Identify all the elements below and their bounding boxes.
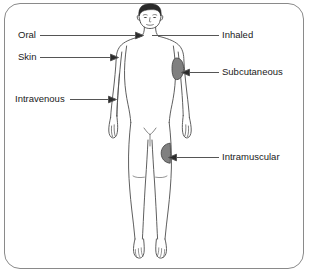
left-foot-toes: [135, 248, 142, 258]
label-subcutaneous: Subcutaneous: [222, 67, 283, 77]
right-hand: [182, 116, 191, 138]
subcutaneous-patch-icon: [172, 58, 184, 80]
face-features-group: [143, 14, 157, 25]
left-knee: [133, 176, 144, 178]
right-leg-outer: [165, 123, 171, 240]
left-leg-outer: [129, 123, 135, 240]
human-body-figure: [0, 0, 310, 275]
diagram-root: Oral Skin Intravenous Inhaled Subcutaneo…: [0, 0, 310, 275]
left-leg-inner: [142, 140, 148, 239]
pelvis-line: [144, 128, 156, 135]
left-eyebrow: [143, 14, 147, 15]
label-skin: Skin: [18, 52, 36, 62]
right-leg-inner: [152, 140, 158, 239]
hair-icon: [139, 4, 161, 16]
left-hand-fingers: [111, 125, 115, 137]
right-knee: [156, 176, 167, 178]
mouth: [147, 25, 154, 26]
left-eye: [144, 17, 148, 18]
intramuscular-patch-icon: [161, 143, 170, 163]
label-intramuscular: Intramuscular: [222, 152, 280, 162]
skin-arrowhead-icon: [111, 54, 119, 61]
right-foot-toes: [157, 248, 164, 258]
right-eyebrow: [153, 14, 157, 15]
torso-waist: [124, 46, 175, 123]
body-outline-group: [109, 6, 191, 259]
left-hand: [109, 116, 118, 138]
right-hand-fingers: [185, 125, 189, 137]
nose: [149, 18, 151, 22]
label-oral: Oral: [18, 30, 36, 40]
label-inhaled: Inhaled: [222, 30, 253, 40]
forearm-vein-line: [117, 74, 119, 117]
oral-arrowhead-icon: [136, 32, 144, 39]
label-intravenous: Intravenous: [15, 94, 65, 104]
right-eye: [153, 17, 157, 18]
